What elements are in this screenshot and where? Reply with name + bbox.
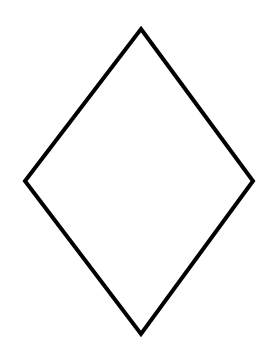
rhombus-shape xyxy=(25,29,253,334)
diagram-canvas xyxy=(0,0,276,362)
